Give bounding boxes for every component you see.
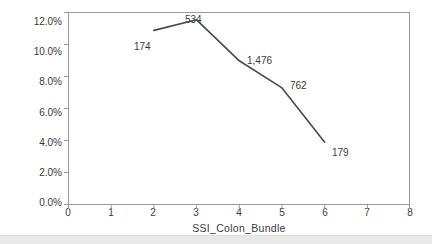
y-tick-marks (64, 13, 69, 205)
plot-frame (69, 13, 410, 205)
chart-container: SSI Rate 0.0% 2.0% 4.0% 6.0% 8.0% 10.0% … (0, 0, 432, 244)
series-line-ssi-rate (154, 20, 325, 142)
x-tick-marks (69, 205, 410, 210)
page-bottom-strip (0, 235, 432, 244)
plot-svg (0, 0, 432, 244)
